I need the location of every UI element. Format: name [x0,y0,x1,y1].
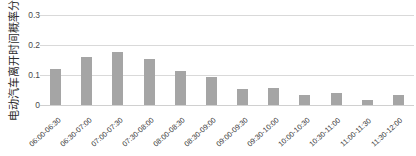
bar-slot [134,10,165,105]
bar-slot [352,10,383,105]
x-axis-tick-labels: 06:00-06:3006:30-07:0007:00-07:3007:30-0… [40,106,414,156]
x-label-slot: 10:00-10:30 [289,106,320,156]
y-tick-label: 0.1 [18,71,40,80]
x-label-slot: 06:00-06:30 [40,106,71,156]
bar[interactable] [362,100,373,105]
y-tick-label: 0 [18,101,40,110]
bar[interactable] [299,95,310,105]
x-label-slot: 11:30-12:00 [383,106,414,156]
bar-slot [196,10,227,105]
x-label-slot: 07:30-08:00 [134,106,165,156]
bar-slot [383,10,414,105]
bar-slot [102,10,133,105]
bar[interactable] [331,93,342,105]
bar-slot [71,10,102,105]
y-tick-label: 0.3 [18,11,40,20]
x-label-slot: 07:00-07:30 [102,106,133,156]
bar[interactable] [50,69,61,105]
bar-slot [321,10,352,105]
x-label-slot: 08:00-08:30 [165,106,196,156]
bar[interactable] [393,95,404,105]
bar-chart: 电动汽车离开时间概率分布 0.3 0.2 0.1 0 06:00-06:3006… [0,0,416,156]
bar-slot [165,10,196,105]
bar[interactable] [268,88,279,105]
bar-slot [258,10,289,105]
plot-area [40,10,414,106]
bar-slot [289,10,320,105]
x-label-slot: 11:00-11:30 [352,106,383,156]
x-label-slot: 09:00-09:30 [227,106,258,156]
y-tick-label: 0.2 [18,41,40,50]
bar[interactable] [237,89,248,105]
bar[interactable] [206,77,217,105]
bar-slot [40,10,71,105]
x-label-slot: 10:30-11:00 [321,106,352,156]
bar[interactable] [112,52,123,105]
bar-slot [227,10,258,105]
x-tick-label: 06:00-06:30 [27,116,62,149]
x-label-slot: 09:30-10:00 [258,106,289,156]
x-label-slot: 06:30-07:00 [71,106,102,156]
y-axis-tick-labels: 0.3 0.2 0.1 0 [16,0,40,110]
bar[interactable] [144,59,155,105]
bar[interactable] [175,71,186,105]
bar[interactable] [81,57,92,105]
bar-series [40,10,414,105]
x-label-slot: 08:30-09:00 [196,106,227,156]
